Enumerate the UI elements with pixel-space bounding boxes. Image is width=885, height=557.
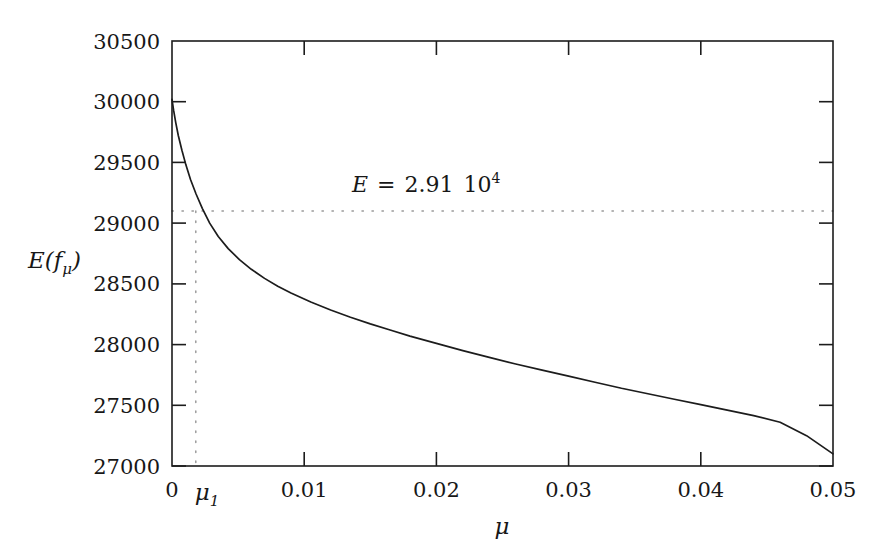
mu1-subscript: 1 bbox=[210, 492, 220, 510]
y-tick-label-30500: 30500 bbox=[93, 30, 160, 54]
annotation-equals: = bbox=[377, 172, 395, 197]
x-tick-label-0.02: 0.02 bbox=[413, 478, 460, 502]
energy-vs-mu-chart: 27000 27500 28000 28500 29000 29500 3000… bbox=[0, 0, 885, 557]
x-tick-label-0: 0 bbox=[165, 478, 178, 502]
x-tick-label-0.04: 0.04 bbox=[677, 478, 724, 502]
y-axis-title-sub: μ bbox=[62, 260, 72, 278]
x-tick-label-0.01: 0.01 bbox=[281, 478, 328, 502]
y-tick-label-29000: 29000 bbox=[93, 212, 160, 236]
annotation-mantissa: 2.91 bbox=[405, 172, 454, 197]
y-axis-title-paren-close: ) bbox=[71, 247, 81, 273]
y-tick-label-27000: 27000 bbox=[93, 455, 160, 479]
mu1-symbol: μ bbox=[195, 479, 210, 505]
figure-container: 27000 27500 28000 28500 29000 29500 3000… bbox=[0, 0, 885, 557]
y-tick-label-28000: 28000 bbox=[93, 333, 160, 357]
annotation-symbol: E bbox=[351, 172, 368, 197]
x-axis-title: μ bbox=[495, 513, 510, 539]
x-tick-label-0.03: 0.03 bbox=[545, 478, 592, 502]
annotation-base: 10 bbox=[463, 172, 491, 197]
y-tick-label-29500: 29500 bbox=[93, 151, 160, 175]
y-tick-label-28500: 28500 bbox=[93, 272, 160, 296]
x-tick-label-0.05: 0.05 bbox=[810, 478, 857, 502]
y-axis-title-E: E bbox=[27, 247, 45, 273]
annotation-exponent: 4 bbox=[491, 170, 500, 186]
y-tick-label-30000: 30000 bbox=[93, 90, 160, 114]
y-tick-label-27500: 27500 bbox=[93, 394, 160, 418]
